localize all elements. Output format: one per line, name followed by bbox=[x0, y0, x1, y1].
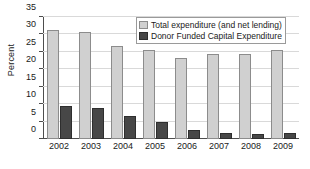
bar-group bbox=[43, 17, 75, 139]
y-axis-tick-label: 5 bbox=[31, 107, 36, 117]
bar-donor-funded-capital-expenditure bbox=[124, 116, 136, 139]
y-axis-tick-label: 0 bbox=[31, 124, 36, 134]
bar-group bbox=[107, 17, 139, 139]
bar-chart: Percent 05101520253035 20022003200420052… bbox=[0, 0, 310, 169]
y-axis-tick-label: 30 bbox=[26, 19, 36, 29]
bar-donor-funded-capital-expenditure bbox=[284, 133, 296, 139]
x-axis-labels: 20022003200420052006200720082009 bbox=[43, 141, 299, 151]
legend-label-total: Total expenditure (and net lending) bbox=[151, 20, 282, 30]
bar-donor-funded-capital-expenditure bbox=[156, 122, 168, 139]
x-axis-tick-label: 2005 bbox=[139, 141, 171, 151]
x-axis-tick-label: 2006 bbox=[171, 141, 203, 151]
bar-total-expenditure bbox=[143, 50, 155, 139]
x-axis-tick-label: 2009 bbox=[267, 141, 299, 151]
chart-legend: Total expenditure (and net lending) Dono… bbox=[136, 17, 286, 44]
y-axis-tick-label: 10 bbox=[26, 89, 36, 99]
x-axis-tick-label: 2002 bbox=[43, 141, 75, 151]
x-axis-tick-label: 2007 bbox=[203, 141, 235, 151]
y-axis-tick-label: 35 bbox=[26, 2, 36, 12]
legend-label-donor: Donor Funded Capital Expenditure bbox=[151, 31, 282, 41]
y-axis-title: Percent bbox=[6, 25, 16, 95]
legend-item-total: Total expenditure (and net lending) bbox=[139, 20, 282, 30]
x-axis-tick-label: 2008 bbox=[235, 141, 267, 151]
legend-swatch-total-icon bbox=[139, 21, 148, 29]
bar-group bbox=[75, 17, 107, 139]
bar-donor-funded-capital-expenditure bbox=[92, 108, 104, 139]
bar-total-expenditure bbox=[47, 30, 59, 139]
bar-donor-funded-capital-expenditure bbox=[252, 134, 264, 139]
bar-total-expenditure bbox=[111, 46, 123, 139]
bar-total-expenditure bbox=[239, 54, 251, 139]
legend-swatch-donor-icon bbox=[139, 32, 148, 40]
x-axis-tick-label: 2003 bbox=[75, 141, 107, 151]
bar-total-expenditure bbox=[175, 58, 187, 139]
legend-item-donor: Donor Funded Capital Expenditure bbox=[139, 31, 282, 41]
bar-donor-funded-capital-expenditure bbox=[60, 106, 72, 139]
bar-total-expenditure bbox=[79, 32, 91, 139]
x-axis-tick-label: 2004 bbox=[107, 141, 139, 151]
y-axis-tick-label: 15 bbox=[26, 72, 36, 82]
y-axis-tick-label: 20 bbox=[26, 54, 36, 64]
bar-total-expenditure bbox=[207, 54, 219, 139]
bar-donor-funded-capital-expenditure bbox=[188, 130, 200, 139]
y-axis-tick-label: 25 bbox=[26, 37, 36, 47]
bar-donor-funded-capital-expenditure bbox=[220, 133, 232, 139]
bar-total-expenditure bbox=[271, 50, 283, 139]
